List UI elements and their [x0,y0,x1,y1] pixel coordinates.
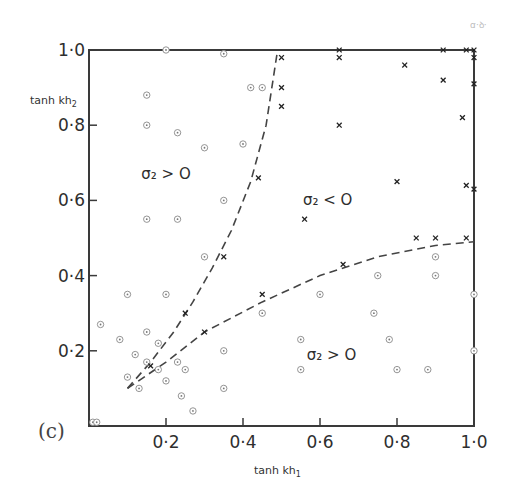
unstable-point-marker [464,183,469,188]
stable-point-marker [144,329,150,335]
stable-point-marker [94,419,100,425]
axis-ticks: 0·20·40·60·81·00·20·40·60·81·0 [58,40,488,452]
stable-point-marker [178,393,184,399]
stable-point-marker [163,378,169,384]
stable-point-marker [174,359,180,365]
region-label: σ₂ > O [141,165,190,183]
stable-point-marker [371,310,377,316]
stable-point-marker [144,216,150,222]
y-tick-label: 0·4 [58,266,85,286]
unstable-point-marker [221,254,226,259]
y-tick-label: 0·8 [58,115,85,135]
stable-point-marker [124,374,130,380]
stable-point-marker [259,84,265,90]
stable-point-marker [386,336,392,342]
region-label: σ₂ > O [307,346,356,364]
stable-point-marker [117,336,123,342]
stable-point-marker [221,348,227,354]
unstable-point-marker [414,236,419,241]
y-tick-label: 1·0 [58,40,85,60]
stable-point-marker [144,122,150,128]
unstable-point-marker [279,85,284,90]
stable-point-marker [182,366,188,372]
unstable-point-marker [433,236,438,241]
unstable-point-marker [148,363,153,368]
y-axis-title: tanh kh2 [30,94,77,109]
region-labels: σ₂ > Oσ₂ < Oσ₂ > O [141,165,356,363]
y-tick-label: 0·6 [58,190,85,210]
margin-pencil-mark: ꭤ·ꝺ· [470,20,487,30]
stable-point-marker [174,130,180,136]
stable-point-marker [471,348,477,354]
stable-point-marker [155,366,161,372]
stable-point-marker [375,272,381,278]
stable-point-marker [298,336,304,342]
unstable-point-marker [337,123,342,128]
stable-point-marker [259,310,265,316]
stable-point-marker [298,366,304,372]
stable-point-marker [163,47,169,53]
stable-point-marker [97,321,103,327]
stable-point-marker [425,366,431,372]
x-tick-label: 0·6 [306,432,333,452]
unstable-point-marker [302,217,307,222]
panel-label: (c) [38,419,65,443]
x-tick-label: 1·0 [460,432,487,452]
y-tick-label: 0·2 [58,341,85,361]
stable-point-marker [201,145,207,151]
unstable-point-marker [464,236,469,241]
stable-point-marker [174,216,180,222]
stable-point-marker [221,197,227,203]
stable-point-marker [432,272,438,278]
stable-point-marker [155,340,161,346]
unstable-point-marker [279,55,284,60]
stable-point-marker [248,84,254,90]
x-axis-title: tanh kh1 [254,464,301,479]
stable-point-marker [136,385,142,391]
unstable-point-marker [260,292,265,297]
stable-point-marker [471,291,477,297]
stable-point-marker [432,254,438,260]
x-tick-label: 0·4 [229,432,256,452]
x-tick-label: 0·8 [383,432,410,452]
stable-point-marker [221,385,227,391]
x-tick-label: 0·2 [152,432,179,452]
stable-point-marker [190,408,196,414]
stability-chart: 0·20·40·60·81·00·20·40·60·81·0 σ₂ > Oσ₂ … [0,0,514,489]
stable-point-marker [124,291,130,297]
stable-point-marker [394,366,400,372]
unstable-point-marker [337,55,342,60]
stable-point-marker [132,351,138,357]
stable-point-marker [240,141,246,147]
stable-point-marker [317,291,323,297]
stable-point-marker [163,291,169,297]
unstable-point-marker [395,179,400,184]
unstable-point-marker [441,78,446,83]
region-label: σ₂ < O [303,191,352,209]
stable-point-marker [144,92,150,98]
data-points [90,47,478,426]
stable-point-marker [201,254,207,260]
unstable-point-marker [279,104,284,109]
unstable-point-marker [460,115,465,120]
stable-point-marker [221,51,227,57]
unstable-point-marker [341,262,346,267]
unstable-point-marker [402,63,407,68]
unstable-point-marker [256,175,261,180]
